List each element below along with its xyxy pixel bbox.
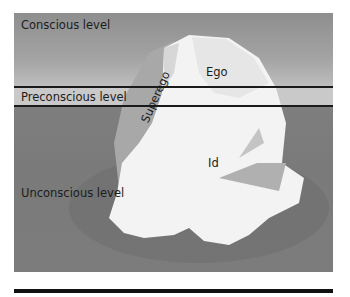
preconscious-level-label: Preconscious level: [21, 90, 127, 104]
preconscious-unconscious-boundary: [14, 105, 333, 107]
id-label: Id: [208, 156, 219, 170]
iceberg-diagram: Conscious level Preconscious level Uncon…: [14, 13, 333, 272]
iceberg-shape: [14, 13, 333, 272]
conscious-preconscious-boundary: [14, 86, 333, 88]
ego-label: Ego: [206, 65, 228, 79]
conscious-level-label: Conscious level: [21, 18, 110, 32]
bottom-rule: [14, 289, 333, 293]
unconscious-level-label: Unconscious level: [21, 186, 124, 200]
